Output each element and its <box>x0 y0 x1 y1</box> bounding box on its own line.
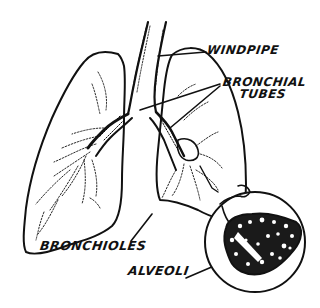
lung-diagram: WINDPIPE BRONCHIAL TUBES BRONCHIOLES ALV… <box>0 0 320 308</box>
label-alveoli: ALVEOLI <box>127 265 190 278</box>
bronchial-tubes <box>88 112 198 170</box>
label-bronchial-tubes: BRONCHIAL TUBES <box>220 76 307 100</box>
label-windpipe: WINDPIPE <box>206 44 280 56</box>
label-bronchioles: BRONCHIOLES <box>39 240 147 253</box>
label-bronchial-line2: TUBES <box>220 88 305 100</box>
alveoli-inset <box>205 185 305 292</box>
windpipe <box>128 22 166 114</box>
windpipe-leader <box>158 52 206 56</box>
bronchioles-leader <box>131 214 152 241</box>
alveoli-leader <box>186 266 214 278</box>
